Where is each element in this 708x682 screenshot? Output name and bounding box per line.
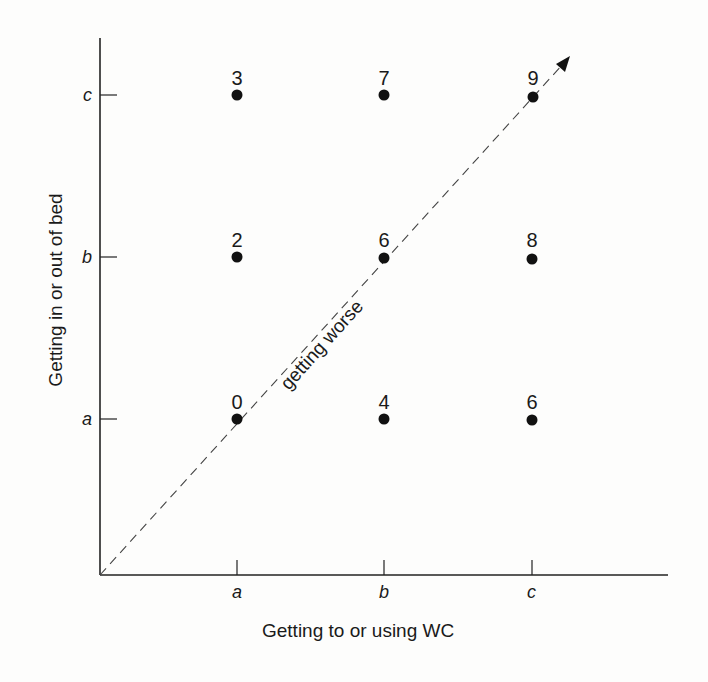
y-tick-label-b: b	[82, 248, 92, 266]
y-axis-title: Getting in or out of bed	[45, 193, 67, 386]
data-point	[379, 90, 390, 101]
data-point	[527, 254, 538, 265]
data-point	[232, 252, 243, 263]
y-tick-label-c: c	[83, 86, 92, 104]
point-label: 3	[231, 68, 242, 88]
point-label: 0	[231, 392, 242, 412]
point-label: 4	[378, 392, 389, 412]
y-tick-label-a: a	[82, 410, 92, 428]
point-label: 8	[526, 230, 537, 250]
data-point	[379, 253, 390, 264]
point-label: 2	[231, 230, 242, 250]
point-label: 6	[378, 230, 389, 250]
point-label: 7	[378, 68, 389, 88]
data-point	[527, 415, 538, 426]
x-tick-label-b: b	[379, 583, 389, 601]
data-point	[379, 414, 390, 425]
point-label: 9	[527, 68, 538, 88]
x-tick-label-a: a	[232, 583, 242, 601]
data-point	[528, 92, 539, 103]
diagram-canvas	[0, 0, 708, 682]
x-axis-title: Getting to or using WC	[262, 621, 454, 640]
data-point	[232, 414, 243, 425]
point-label: 6	[526, 392, 537, 412]
data-point	[232, 90, 243, 101]
x-tick-label-c: c	[527, 583, 536, 601]
